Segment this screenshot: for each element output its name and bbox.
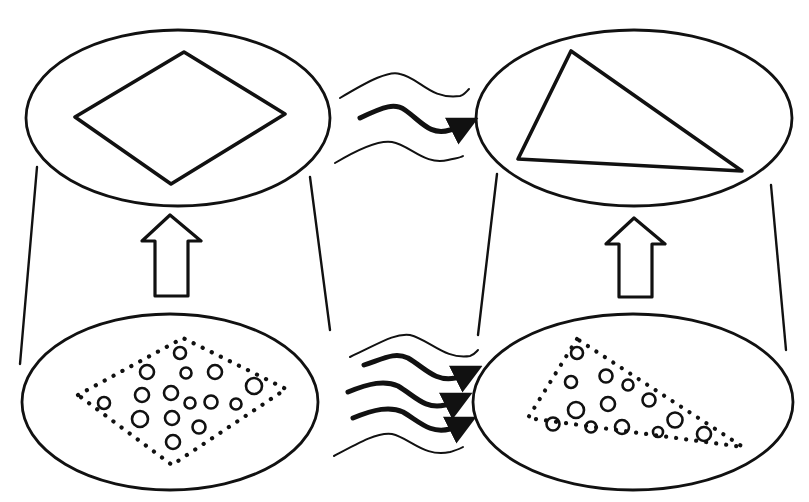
diagram-canvas xyxy=(0,0,809,502)
wave-line-thin xyxy=(335,142,463,163)
right-funnel-outer-line xyxy=(771,185,786,350)
panel-bottom-right-dotted-triangle xyxy=(473,314,793,490)
up-arrow-left xyxy=(142,215,201,296)
up-arrow-right xyxy=(606,218,665,297)
particles-diamond xyxy=(98,347,262,449)
wavy-arrow-bold xyxy=(353,409,464,430)
wave-line-thin xyxy=(350,335,478,357)
panel-bottom-left-dotted-diamond xyxy=(22,314,318,490)
panel-top-right-triangle xyxy=(476,30,792,206)
left-funnel-inner-line xyxy=(310,177,330,330)
wavy-arrow-bold xyxy=(348,383,460,406)
up-arrow-icon xyxy=(606,218,665,297)
left-funnel-outer-line xyxy=(20,167,37,364)
particles-triangle xyxy=(547,347,712,441)
panel-top-left-diamond xyxy=(26,30,330,206)
ellipse-top-right xyxy=(476,30,792,206)
wavy-arrows-top xyxy=(335,73,469,163)
wavy-arrows-bottom xyxy=(334,335,478,456)
ellipse-bottom-right xyxy=(473,314,793,490)
wavy-arrow-bold xyxy=(360,106,466,131)
wave-line-thin xyxy=(340,73,469,98)
right-funnel-inner-line xyxy=(478,174,497,335)
wave-line-thin xyxy=(334,434,463,456)
up-arrow-icon xyxy=(142,215,201,296)
triangle-shape xyxy=(518,51,742,171)
wavy-arrow-bold xyxy=(364,356,470,379)
diamond-shape xyxy=(75,52,285,184)
